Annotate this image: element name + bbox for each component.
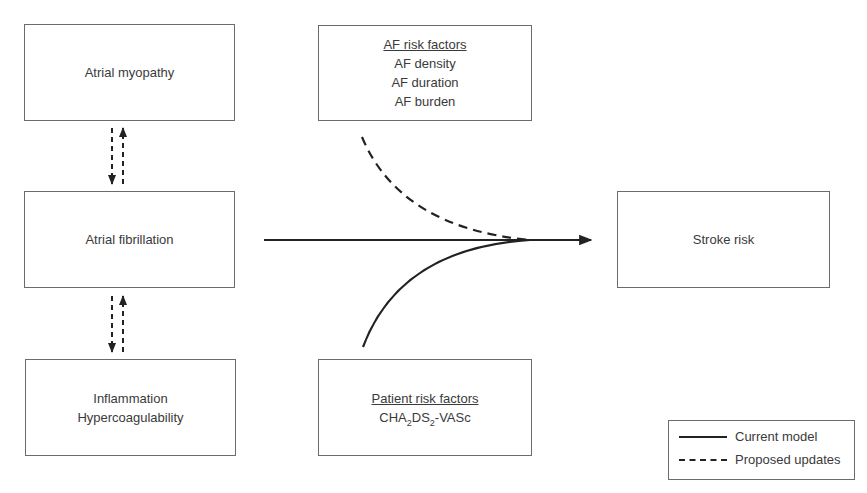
- box-label: Stroke risk: [693, 230, 754, 249]
- box-item: AF burden: [395, 92, 456, 111]
- cha2ds2-vasc-score: CHA2DS2-VASc: [379, 408, 470, 427]
- box-atrial-fibrillation: Atrial fibrillation: [24, 191, 235, 288]
- legend-label: Current model: [735, 429, 817, 444]
- box-heading: Patient risk factors: [372, 389, 479, 408]
- box-label: Atrial fibrillation: [85, 230, 173, 249]
- box-item: AF density: [394, 54, 455, 73]
- box-label: Atrial myopathy: [85, 63, 175, 82]
- box-line: Inflammation: [93, 389, 167, 408]
- dashed-line-icon: [679, 459, 727, 461]
- legend-item-current: Current model: [679, 429, 817, 444]
- legend-item-proposed: Proposed updates: [679, 452, 841, 467]
- box-item: AF duration: [391, 73, 458, 92]
- box-line: Hypercoagulability: [77, 408, 183, 427]
- myopathy-fibrillation-arrows: [112, 128, 123, 184]
- solid-line-icon: [679, 436, 727, 438]
- box-atrial-myopathy: Atrial myopathy: [24, 24, 235, 121]
- box-heading: AF risk factors: [383, 35, 466, 54]
- legend-label: Proposed updates: [735, 452, 841, 467]
- box-inflammation: Inflammation Hypercoagulability: [25, 359, 236, 456]
- patient-risk-curve: [363, 240, 530, 347]
- fibrillation-inflammation-arrows: [112, 296, 123, 352]
- legend: Current model Proposed updates: [668, 420, 855, 480]
- af-risk-curve: [362, 137, 530, 240]
- box-patient-risk-factors: Patient risk factors CHA2DS2-VASc: [318, 359, 532, 456]
- box-stroke-risk: Stroke risk: [617, 191, 830, 288]
- box-af-risk-factors: AF risk factors AF density AF duration A…: [318, 25, 532, 121]
